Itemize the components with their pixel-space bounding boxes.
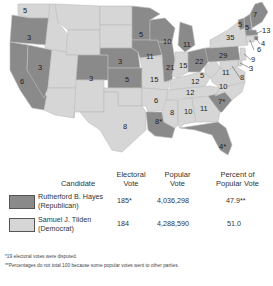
- svg-text:4: 4: [261, 39, 265, 48]
- svg-text:29: 29: [219, 51, 227, 60]
- state-AZ: [44, 88, 76, 118]
- state-UT: [48, 50, 78, 88]
- state-SD: [100, 25, 132, 48]
- header-popular-vote: Popular Vote: [155, 170, 200, 188]
- header-percent-popular: Percent of Popular Vote: [205, 170, 270, 188]
- svg-text:13: 13: [262, 26, 270, 35]
- svg-text:35: 35: [226, 33, 234, 42]
- svg-text:5: 5: [245, 23, 249, 32]
- svg-text:3: 3: [118, 57, 122, 66]
- electoral-vote-hayes: 185*: [117, 197, 132, 206]
- candidate-hayes: Rutherford B. Hayes (Republican): [38, 193, 103, 210]
- footnote-percentages: **Percentages do not total 100 because s…: [5, 263, 179, 268]
- label-WA: 5: [23, 6, 27, 15]
- svg-text:8: 8: [123, 122, 127, 131]
- candidate-party: (Republican): [38, 202, 103, 211]
- svg-text:12: 12: [191, 77, 199, 86]
- electoral-vote-tilden: 184: [117, 220, 129, 229]
- svg-text:5: 5: [125, 75, 129, 84]
- percent-hayes: 47.9**: [226, 197, 246, 206]
- svg-text:5: 5: [139, 30, 143, 39]
- header-electoral-line2: Vote: [107, 179, 155, 188]
- svg-text:21: 21: [166, 63, 174, 72]
- svg-text:22: 22: [195, 57, 203, 66]
- us-map-svg: 5 3 6 3 3 3 5 8 5 11 15 6 8* 10 21 11 15…: [0, 0, 273, 160]
- svg-text:3: 3: [38, 63, 42, 72]
- state-NJ: [240, 48, 246, 60]
- popular-vote-tilden: 4,288,590: [157, 220, 189, 229]
- svg-text:15: 15: [150, 75, 158, 84]
- label-WV: 5: [200, 71, 204, 80]
- header-electoral-vote: Electoral Vote: [107, 170, 155, 188]
- svg-text:11: 11: [146, 52, 154, 61]
- popular-vote-hayes: 4,036,298: [157, 197, 189, 206]
- svg-text:6: 6: [20, 77, 24, 86]
- header-percent-line2: Popular Vote: [205, 179, 270, 188]
- svg-text:10: 10: [219, 82, 227, 91]
- svg-text:11: 11: [222, 68, 230, 77]
- header-percent-line1: Percent of: [205, 170, 270, 179]
- svg-text:8: 8: [170, 108, 174, 117]
- svg-text:3: 3: [249, 64, 253, 73]
- percent-tilden: 51.0: [227, 220, 241, 229]
- header-popular-line1: Popular: [155, 170, 200, 179]
- svg-text:3: 3: [89, 74, 93, 83]
- svg-text:9: 9: [251, 55, 255, 64]
- svg-text:11: 11: [200, 104, 208, 113]
- svg-text:4*: 4*: [219, 142, 226, 151]
- header-popular-line2: Vote: [155, 179, 200, 188]
- candidate-tilden: Samuel J. Tilden (Democrat): [38, 216, 91, 233]
- svg-text:12: 12: [186, 88, 194, 97]
- svg-text:3: 3: [27, 33, 31, 42]
- state-CT: [246, 36, 254, 42]
- svg-text:5: 5: [238, 20, 242, 29]
- candidate-party: (Democrat): [38, 225, 91, 234]
- legend-swatch-republican: [9, 195, 35, 209]
- svg-text:6: 6: [154, 96, 158, 105]
- footnote-disputed: *19 electoral votes were disputed.: [5, 254, 77, 259]
- election-map: 5 3 6 3 3 3 5 8 5 11 15 6 8* 10 21 11 15…: [0, 0, 273, 160]
- state-MT: [55, 4, 100, 30]
- svg-text:7: 7: [253, 10, 257, 19]
- svg-text:6: 6: [257, 45, 261, 54]
- svg-text:15: 15: [179, 61, 187, 70]
- svg-text:8: 8: [240, 73, 244, 82]
- header-electoral-line1: Electoral: [107, 170, 155, 179]
- legend-swatch-democrat: [9, 218, 35, 232]
- svg-text:11: 11: [183, 40, 191, 49]
- svg-text:10: 10: [163, 37, 171, 46]
- svg-text:8*: 8*: [155, 117, 162, 126]
- state-ND: [100, 6, 132, 25]
- header-candidate: Candidate: [48, 179, 108, 188]
- svg-text:7*: 7*: [218, 97, 225, 106]
- state-WY: [66, 30, 100, 55]
- svg-text:10: 10: [184, 107, 192, 116]
